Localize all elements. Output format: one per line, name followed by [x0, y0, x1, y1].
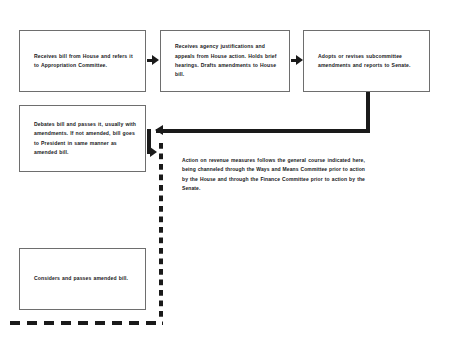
dashed-connector-vertical-feedback — [159, 143, 163, 325]
connector-vertical-committee-down — [366, 92, 370, 133]
arrowhead-right-icon — [150, 147, 157, 157]
note-lead: Action on revenue measures follows — [182, 157, 278, 163]
revenue-measures-note: Action on revenue measures follows the g… — [182, 156, 365, 194]
arrowhead-left-icon — [155, 125, 163, 135]
note-paragraph: Action on revenue measures follows the g… — [182, 156, 365, 194]
process-box-house-considers: Considers and passes amended bill. — [19, 248, 146, 310]
process-box-full-committee-report: Adopts or revises subcommittee amendment… — [303, 30, 430, 92]
process-box-text: Debates bill and passes it, usually with… — [20, 120, 145, 158]
process-box-appropriation-committee: Receives bill from House and refers it t… — [19, 30, 146, 92]
arrowhead-right-icon — [296, 55, 303, 65]
arrowhead-right-icon — [152, 55, 159, 65]
process-box-subcommittee-hearings: Receives agency justifications and appea… — [160, 30, 290, 92]
flowchart-canvas: Receives bill from House and refers it t… — [0, 0, 449, 343]
note-emphasis: the general course indicated here — [278, 157, 364, 163]
connector-horizontal-to-senate-debate — [156, 129, 370, 133]
process-box-text: Considers and passes amended bill. — [20, 274, 136, 283]
process-box-text: Adopts or revises subcommittee amendment… — [304, 52, 429, 71]
process-box-senate-debate: Debates bill and passes it, usually with… — [19, 105, 146, 172]
dashed-connector-horizontal-feedback — [10, 321, 162, 326]
process-box-text: Receives bill from House and refers it t… — [20, 52, 145, 71]
process-box-text: Receives agency justifications and appea… — [161, 42, 289, 80]
